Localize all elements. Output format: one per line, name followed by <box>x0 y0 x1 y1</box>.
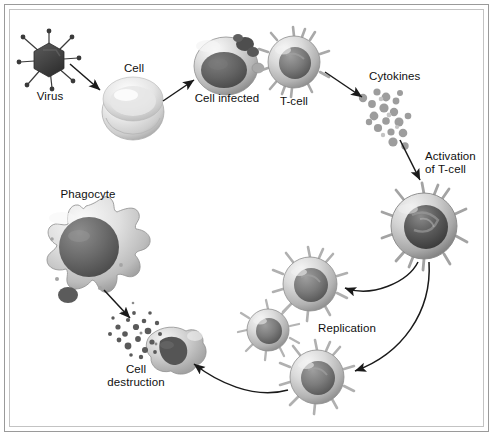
arrow-tcell-to-cytokines <box>325 72 362 97</box>
node-replicate-2 <box>238 300 299 360</box>
label-phagocyte: Phagocyte <box>52 188 124 201</box>
arrow-phagocyte-to-debris <box>104 290 130 318</box>
arrow-virus-to-cell <box>70 64 100 90</box>
label-cell-infected: Cell infected <box>186 92 268 105</box>
node-activated-t-cell <box>382 183 467 270</box>
label-replication: Replication <box>318 322 376 335</box>
diagram-graphics <box>0 0 494 437</box>
label-cytokines: Cytokines <box>369 70 420 83</box>
label-activation-line1: Activation <box>425 150 476 163</box>
node-t-cell <box>259 27 329 97</box>
node-cytokines <box>359 88 412 149</box>
node-virus <box>17 29 82 92</box>
node-cell <box>102 77 164 140</box>
diagram-canvas: Virus Cell Cell infected T-cell Cytokine… <box>0 0 494 437</box>
label-cell: Cell <box>108 62 160 75</box>
arrow-replication-to-destruction <box>194 364 288 393</box>
label-activation-line2: of T-cell <box>425 163 466 176</box>
node-phagocyte <box>47 197 150 303</box>
arrow-activation-to-replication-3 <box>355 262 429 371</box>
label-cell-destruction-line2: destruction <box>103 376 169 389</box>
label-cell-destruction-line1: Cell <box>103 363 169 376</box>
node-replicate-3 <box>280 340 354 414</box>
node-cell-infected <box>194 34 264 95</box>
label-virus: Virus <box>20 90 80 103</box>
label-t-cell: T-cell <box>271 95 317 108</box>
arrow-activation-to-replication-1 <box>345 262 418 291</box>
arrow-cytokines-to-activation <box>400 140 420 180</box>
